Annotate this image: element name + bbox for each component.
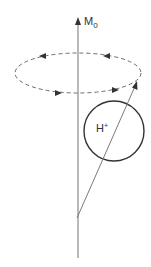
vector-arrowhead-icon	[132, 81, 138, 90]
proton-label: H+	[96, 122, 108, 134]
orbit-arrow-icon	[55, 90, 62, 96]
orbit-arrow-icon	[103, 53, 110, 59]
precession-diagram: M0 H+	[0, 0, 151, 267]
orbit-arrow-icon	[112, 87, 119, 93]
axis-arrowhead-icon	[75, 17, 81, 25]
m0-label: M0	[84, 15, 98, 30]
orbit-arrow-icon	[39, 53, 46, 59]
moment-vector	[77, 84, 136, 218]
proton-circle	[84, 101, 144, 161]
